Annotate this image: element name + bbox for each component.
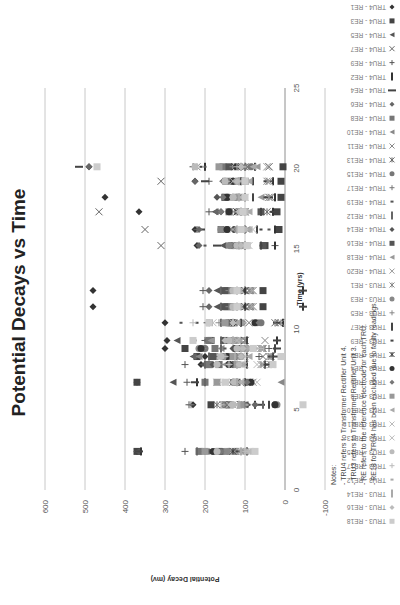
y-tick-label: 300: [161, 499, 170, 513]
data-point: [218, 208, 225, 215]
data-point: [208, 401, 215, 408]
data-point: [222, 319, 229, 326]
data-point: [262, 337, 269, 344]
legend-label: TRU4 - RE2: [350, 74, 386, 81]
data-point: [182, 361, 189, 368]
data-point: [264, 196, 267, 198]
legend-label: TRU3 - RE7: [350, 324, 386, 331]
data-point: [196, 447, 198, 455]
data-point: [224, 347, 227, 349]
legend-label: TRU4 - RE15: [347, 171, 386, 178]
data-point: [90, 287, 97, 294]
data-point: [274, 242, 276, 250]
legend-marker: [391, 323, 393, 331]
data-point: [250, 345, 257, 352]
data-point: [202, 448, 209, 455]
legend-marker: [391, 490, 393, 498]
legend-marker: [390, 366, 395, 371]
data-point: [162, 319, 169, 326]
data-point: [260, 208, 262, 216]
data-point: [174, 337, 181, 344]
legend-label: TRU4 - RE19: [347, 199, 386, 206]
data-point: [162, 345, 169, 352]
x-tick-label: 15: [292, 244, 301, 253]
data-point: [274, 226, 276, 234]
data-point: [260, 303, 267, 310]
legend-marker: [390, 519, 395, 524]
data-point: [202, 353, 209, 360]
data-point: [158, 242, 165, 249]
legend-label: TRU4 - RE10: [347, 129, 386, 136]
data-point: [244, 322, 247, 324]
legend-marker: [390, 435, 395, 440]
legend-marker: [390, 408, 395, 413]
data-point: [204, 378, 206, 386]
data-point: [204, 361, 206, 369]
x-tick-label: 20: [292, 163, 301, 172]
data-point: [201, 180, 209, 182]
legend-marker: [390, 283, 395, 288]
x-tick-label: 25: [292, 83, 301, 92]
data-point: [240, 447, 242, 455]
legend-label: TRU3 - RE9: [350, 338, 386, 345]
data-point: [234, 287, 241, 294]
legend-marker: [390, 46, 395, 51]
legend-label: TRU4 - RE14: [347, 226, 386, 233]
data-point: [262, 401, 264, 409]
data-point: [158, 178, 165, 185]
legend-marker: [390, 171, 395, 176]
scatter-plot: 6005004003002001000-1000510152025Time (y…: [0, 0, 400, 605]
data-point: [264, 180, 267, 182]
data-point: [270, 211, 273, 213]
notes-line: - TRU3 refers to Transformer Rectifier U…: [350, 345, 357, 485]
legend-marker: [390, 185, 395, 190]
data-point: [234, 353, 236, 361]
legend-marker: [390, 380, 395, 385]
chart-container: Potential Decays vs Time 600500400300200…: [0, 0, 400, 605]
y-tick-label: -100: [321, 499, 330, 516]
data-point: [234, 345, 241, 352]
legend-marker: [390, 505, 395, 510]
data-point: [232, 336, 234, 344]
data-point: [190, 337, 197, 344]
legend-label: TRU4 - RE7: [350, 46, 386, 53]
legend-label: TRU3 - RE18: [347, 518, 386, 525]
data-point: [280, 163, 287, 170]
legend-label: TRU3 - RE5: [350, 310, 386, 317]
legend-marker: [390, 144, 395, 149]
legend-marker: [390, 227, 395, 232]
legend-label: TRU4 - RE12: [347, 213, 386, 220]
data-point: [268, 356, 271, 358]
data-point: [204, 166, 207, 168]
legend-label: TRU4 - RE8: [350, 115, 386, 122]
data-point: [260, 287, 267, 294]
data-point: [190, 319, 197, 326]
legend-marker: [391, 73, 393, 81]
data-point: [206, 303, 213, 310]
legend-label: TRU4 - RE1: [350, 4, 386, 11]
legend-label: TRU4 - RE18: [347, 254, 386, 261]
data-point: [260, 229, 263, 231]
data-point: [272, 401, 279, 408]
legend-marker: [390, 102, 395, 107]
y-tick-label: 200: [201, 499, 210, 513]
legend-marker: [390, 60, 395, 65]
data-point: [274, 344, 276, 352]
data-point: [220, 344, 222, 352]
data-point: [170, 379, 177, 386]
notes-heading: Notes:: [330, 465, 337, 485]
data-point: [86, 163, 93, 170]
legend-label: TRU3 - RE1: [350, 282, 386, 289]
data-point: [180, 322, 183, 324]
data-point: [204, 245, 207, 247]
data-point: [216, 163, 223, 170]
data-point: [299, 290, 307, 292]
data-point: [246, 319, 253, 326]
legend-marker: [390, 394, 395, 399]
data-point: [212, 345, 219, 352]
data-point: [254, 361, 261, 368]
notes-line: - RE refers to the reference electrode f…: [360, 324, 367, 485]
data-point: [214, 194, 221, 201]
data-point: [254, 379, 261, 386]
data-point: [276, 226, 283, 233]
